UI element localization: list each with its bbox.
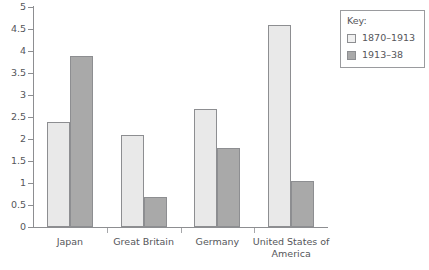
y-axis-tick-label: 0 [0, 222, 26, 232]
y-axis-tick-label: 0.5 [0, 200, 26, 210]
legend-title: Key: [347, 16, 424, 26]
bar-chart: 00.511.522.533.544.55 Key: 1870–19131913… [0, 0, 429, 270]
x-axis-category-label: Great Britain [103, 236, 185, 248]
bar [291, 181, 314, 227]
y-axis-tick [28, 205, 33, 206]
y-axis-tick [28, 29, 33, 30]
chart-legend: Key: 1870–19131913–38 [340, 10, 425, 68]
y-axis-tick [28, 227, 33, 228]
y-axis-tick [28, 117, 33, 118]
x-axis-tick [254, 228, 255, 233]
x-axis-tick [107, 228, 108, 233]
x-axis-tick [181, 228, 182, 233]
legend-swatch-icon [347, 51, 356, 60]
y-axis-tick-label: 2.5 [0, 112, 26, 122]
legend-entry-label: 1870–1913 [362, 33, 415, 43]
y-axis-tick [28, 183, 33, 184]
y-axis-tick [28, 139, 33, 140]
bar [144, 197, 167, 227]
y-axis-tick-label: 3.5 [0, 68, 26, 78]
bar [47, 122, 70, 227]
y-axis-tick [28, 51, 33, 52]
y-axis-tick [28, 95, 33, 96]
y-axis-tick-label: 4 [0, 46, 26, 56]
y-axis-tick-label: 2 [0, 134, 26, 144]
bar [217, 148, 240, 227]
bar [121, 135, 144, 227]
bar [268, 25, 291, 227]
y-axis-tick-labels: 00.511.522.533.544.55 [0, 0, 26, 270]
bar [70, 56, 93, 227]
legend-swatch-icon [347, 34, 356, 43]
x-axis-category-label: Germany [177, 236, 259, 248]
y-axis-tick [28, 161, 33, 162]
legend-entry: 1913–38 [347, 50, 424, 60]
legend-entries: 1870–19131913–38 [347, 33, 424, 60]
y-axis-tick-label: 1 [0, 178, 26, 188]
plot-area [33, 7, 328, 227]
y-axis-tick-label: 3 [0, 90, 26, 100]
y-axis-tick [28, 7, 33, 8]
bar [194, 109, 217, 227]
legend-entry-label: 1913–38 [362, 50, 403, 60]
legend-entry: 1870–1913 [347, 33, 424, 43]
y-axis-tick-label: 1.5 [0, 156, 26, 166]
x-axis-category-label: United States of America [250, 236, 332, 259]
x-axis-category-label: Japan [29, 236, 111, 248]
y-axis-tick-label: 5 [0, 2, 26, 12]
y-axis-tick-label: 4.5 [0, 24, 26, 34]
y-axis-tick [28, 73, 33, 74]
